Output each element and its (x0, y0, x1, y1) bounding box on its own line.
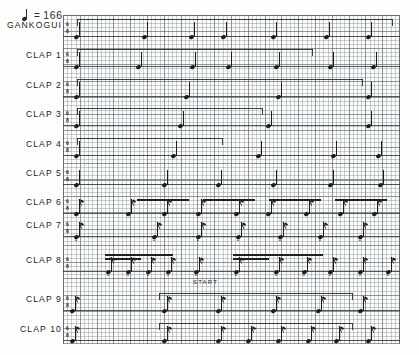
note-glyph (338, 199, 348, 216)
note-glyph (216, 326, 226, 343)
tie-bracket (77, 138, 223, 139)
tie-bracket (77, 108, 263, 109)
note-glyph (226, 52, 236, 69)
note-glyph (171, 141, 181, 158)
note-glyph (274, 52, 284, 69)
accent-mark: • (147, 273, 149, 278)
beam (203, 199, 255, 201)
accent-mark: • (303, 273, 305, 278)
staff-label-clap-3: CLAP 3 (0, 108, 62, 120)
note-glyph (234, 199, 244, 216)
beam (137, 199, 189, 201)
note-glyph (372, 199, 382, 216)
note-glyph (136, 52, 146, 69)
staff-baseline (63, 36, 400, 37)
staff-label-clap-6: CLAP 6 (0, 196, 62, 208)
note-glyph (366, 22, 376, 39)
beam (105, 254, 173, 256)
note-glyph (74, 82, 84, 99)
accent-mark: • (329, 273, 331, 278)
note-glyph (324, 22, 334, 39)
note-glyph (74, 52, 84, 69)
note-glyph (316, 296, 326, 313)
staff-baseline (63, 340, 400, 341)
note-glyph (162, 199, 172, 216)
note-glyph (276, 82, 286, 99)
note-glyph (221, 22, 231, 39)
staff-label-column: GANKOGUICLAP 1CLAP 2CLAP 3CLAP 4CLAP 5CL… (0, 0, 62, 355)
staff-label-clap-9: CLAP 9 (0, 293, 62, 305)
tie-bracket (159, 293, 353, 294)
staff-label-clap-8: CLAP 8 (0, 254, 62, 266)
accent-mark: • (279, 238, 281, 243)
accent-mark: • (275, 273, 277, 278)
beam (233, 254, 323, 256)
note-glyph (378, 170, 388, 187)
accent-mark: • (167, 273, 169, 278)
note-glyph (74, 22, 84, 39)
accent-mark: • (237, 238, 239, 243)
tie-bracket (77, 19, 393, 20)
note-glyph (196, 199, 206, 216)
beam (105, 258, 141, 260)
staff-label-clap-5: CLAP 5 (0, 167, 62, 179)
staff-label-clap-1: CLAP 1 (0, 49, 62, 61)
tie-bracket (77, 49, 313, 50)
accent-mark: • (359, 273, 361, 278)
note-glyph (256, 141, 266, 158)
staff-baseline (63, 155, 400, 156)
tie-bracket (77, 79, 363, 80)
accent-mark: • (235, 273, 237, 278)
note-glyph (271, 22, 281, 39)
start-annotation: START (193, 279, 218, 285)
staff-baseline (63, 236, 400, 237)
note-glyph (366, 326, 376, 343)
note-glyph (304, 199, 314, 216)
note-glyph (184, 82, 194, 99)
note-glyph (216, 296, 226, 313)
staff-baseline (63, 125, 400, 126)
accent-mark: • (387, 273, 389, 278)
beam (269, 199, 321, 201)
staff-label-clap-7: CLAP 7 (0, 219, 62, 231)
accent-mark: • (127, 273, 129, 278)
accent-mark: • (107, 273, 109, 278)
note-glyph (276, 326, 286, 343)
beam (335, 199, 387, 201)
beam (233, 258, 269, 260)
note-glyph (162, 170, 172, 187)
note-glyph (74, 141, 84, 158)
note-glyph (328, 52, 338, 69)
note-glyph (162, 296, 172, 313)
note-glyph (142, 22, 152, 39)
note-glyph (366, 82, 376, 99)
note-glyph (246, 326, 256, 343)
note-glyph (74, 170, 84, 187)
staff-baseline (63, 184, 400, 185)
note-glyph (376, 141, 386, 158)
note-glyph (371, 52, 381, 69)
note-glyph (328, 170, 338, 187)
note-glyph (358, 296, 368, 313)
staff-label-gankogui: GANKOGUI (0, 19, 62, 31)
note-glyph (74, 199, 84, 216)
accent-mark: • (75, 238, 77, 243)
note-glyph (126, 199, 136, 216)
staff-baseline (63, 213, 400, 214)
note-glyph (70, 326, 80, 343)
notation-sheet: = 166 GANKOGUICLAP 1CLAP 2CLAP 3CLAP 4CL… (0, 0, 419, 355)
note-glyph (266, 111, 276, 128)
accent-mark: • (197, 238, 199, 243)
accent-mark: • (359, 238, 361, 243)
accent-mark: • (153, 238, 155, 243)
note-glyph (331, 141, 341, 158)
note-glyph (334, 326, 344, 343)
note-glyph (271, 296, 281, 313)
note-glyph (271, 170, 281, 187)
note-glyph (190, 52, 200, 69)
note-glyph (70, 296, 80, 313)
staff-label-clap-2: CLAP 2 (0, 79, 62, 91)
note-glyph (162, 326, 172, 343)
tie-bracket (159, 323, 353, 324)
time-signature: 68 (66, 256, 75, 271)
